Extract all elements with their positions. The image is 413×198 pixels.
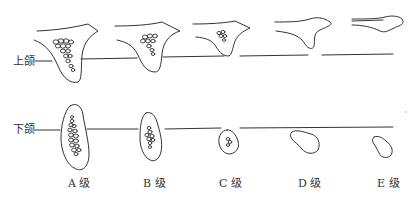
upper-grade-b-torus-cluster [141, 34, 158, 56]
upper-jaw-label: 上颌 [13, 56, 35, 68]
lower-grade-c-torus-cluster [226, 138, 232, 147]
lower-jaw-label: 下颌 [13, 124, 35, 136]
scan-noise [397, 111, 406, 183]
upper-grade-c-torus-cluster [217, 30, 227, 41]
upper-grade-e-shape [352, 16, 403, 32]
grade-d-label: D 级 [298, 178, 321, 190]
grade-e-label: E 级 [377, 178, 400, 190]
upper-grade-a-shape [34, 24, 98, 82]
upper-jaw-reference-line [35, 54, 393, 61]
lower-grade-d-shape [291, 131, 320, 154]
lower-grade-b-torus-cluster [145, 126, 155, 148]
upper-grade-d-shape [275, 18, 331, 49]
upper-grade-a-torus-cluster [53, 39, 75, 72]
upper-grade-c-shape [193, 21, 250, 56]
lower-grade-a-torus-cluster [68, 116, 81, 156]
lower-grade-a-shape [61, 104, 89, 169]
lower-grade-b-shape [140, 112, 162, 160]
grade-b-label: B 级 [143, 178, 166, 190]
grade-c-label: C 级 [219, 178, 242, 190]
grade-a-label: A 级 [68, 178, 90, 190]
lower-jaw-reference-line [35, 127, 393, 130]
diagram-canvas [0, 0, 413, 198]
lower-grade-c-shape [219, 130, 239, 154]
upper-grade-b-shape [115, 22, 180, 72]
lower-grade-e-shape [373, 136, 393, 157]
